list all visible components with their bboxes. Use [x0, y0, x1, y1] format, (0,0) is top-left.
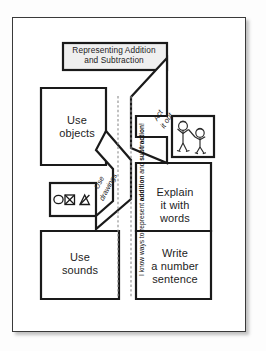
spine-suffix: ! [138, 123, 145, 125]
spine-bold-subtraction: subtraction [138, 125, 145, 161]
write-line-3: sentence [134, 273, 216, 286]
use-sounds-line-1: Use [46, 251, 114, 264]
explain-line-3: words [140, 212, 210, 225]
explain-line-1: Explain [140, 186, 210, 199]
use-objects-line-2: objects [46, 127, 108, 140]
use-sounds-line-2: sounds [46, 264, 114, 277]
spine-bold-addition: addition [138, 176, 145, 202]
spine-middle: and [138, 161, 145, 176]
explain-line-2: it with [140, 199, 210, 212]
spine-prefix: I know ways to represent [138, 201, 145, 276]
title-line-2: and Subtraction [66, 56, 162, 66]
worksheet-page: Representing Addition and Subtraction Us… [0, 0, 266, 351]
panel-label-use-objects: Use objects [46, 114, 108, 140]
panel-label-explain-words: Explain it with words [140, 186, 210, 225]
write-line-1: Write [134, 247, 216, 260]
use-objects-line-1: Use [46, 114, 108, 127]
spine-text: I know ways to represent addition and su… [138, 115, 145, 285]
write-line-2: a number [134, 260, 216, 273]
panel-label-use-sounds: Use sounds [46, 251, 114, 277]
panel-label-write-number: Write a number sentence [134, 247, 216, 286]
title-text: Representing Addition and Subtraction [66, 46, 162, 66]
